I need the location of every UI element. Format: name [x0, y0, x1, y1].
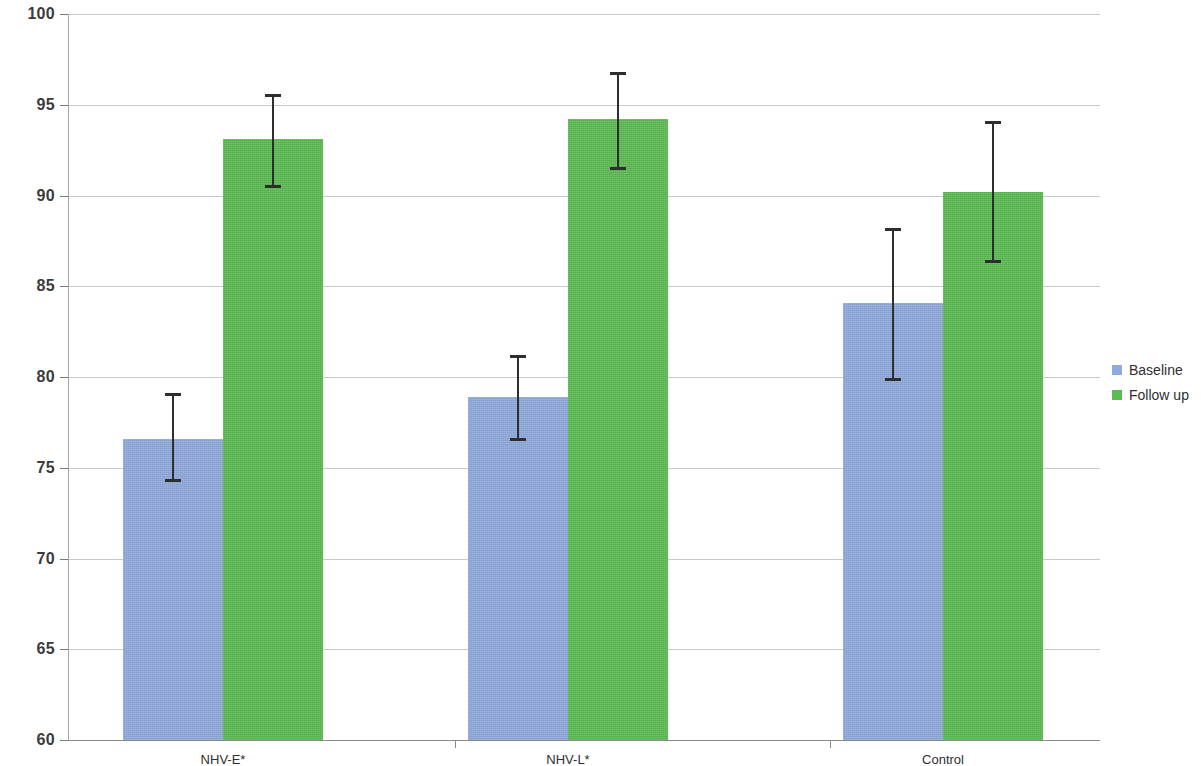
y-tick-label: 90 [37, 187, 55, 205]
y-tick-mark [60, 377, 68, 378]
bar-chart: 1009590858075706560 NHV-E*NHV-L*Control … [0, 0, 1201, 766]
error-bar-cap-top [985, 121, 1001, 124]
x-axis-line [68, 740, 1100, 741]
error-bar-stem [517, 355, 519, 440]
error-bar-cap-bottom [265, 185, 281, 188]
x-tick-mark [830, 741, 831, 748]
bar-Control-follow-up [943, 192, 1043, 740]
y-tick-mark [60, 649, 68, 650]
legend-swatch-icon [1112, 365, 1122, 375]
error-bar-cap-top [885, 228, 901, 231]
error-bar-stem [172, 393, 174, 482]
y-tick-label: 85 [37, 277, 55, 295]
error-bar-cap-top [265, 94, 281, 97]
error-bar-cap-bottom [510, 438, 526, 441]
y-tick-label: 65 [37, 640, 55, 658]
bars-layer [68, 14, 1100, 740]
y-tick-mark [60, 740, 68, 741]
bar-NHVL-baseline [468, 397, 568, 740]
legend-item-follow-up[interactable]: Follow up [1112, 382, 1189, 407]
y-tick-label: 80 [37, 368, 55, 386]
y-tick-label: 95 [37, 96, 55, 114]
x-axis-label-Control: Control [922, 752, 964, 766]
bar-NHVE-follow-up [223, 139, 323, 740]
y-tick-label: 75 [37, 459, 55, 477]
error-bar-cap-top [510, 355, 526, 358]
error-bar-cap-bottom [885, 378, 901, 381]
legend-label: Follow up [1129, 387, 1189, 403]
error-bar-cap-bottom [985, 260, 1001, 263]
error-bar-stem [272, 94, 274, 188]
error-bar-cap-bottom [610, 167, 626, 170]
error-bar-cap-bottom [165, 479, 181, 482]
x-axis-label-NHVL: NHV-L* [546, 752, 589, 766]
legend-swatch-icon [1112, 390, 1122, 400]
error-bar-cap-top [165, 393, 181, 396]
y-tick-mark [60, 286, 68, 287]
legend: BaselineFollow up [1112, 357, 1189, 407]
y-tick-mark [60, 559, 68, 560]
x-axis-label-NHVE: NHV-E* [201, 752, 246, 766]
y-tick-mark [60, 468, 68, 469]
y-tick-mark [60, 196, 68, 197]
error-bar-stem [992, 121, 994, 263]
y-tick-mark [60, 14, 68, 15]
error-bar-stem [617, 72, 619, 170]
legend-label: Baseline [1129, 362, 1183, 378]
error-bar-cap-top [610, 72, 626, 75]
legend-item-baseline[interactable]: Baseline [1112, 357, 1189, 382]
bar-NHVE-baseline [123, 439, 223, 740]
y-tick-mark [60, 105, 68, 106]
y-tick-label: 100 [27, 5, 55, 23]
y-tick-label: 60 [37, 731, 55, 749]
bar-NHVL-follow-up [568, 119, 668, 740]
x-tick-mark [455, 741, 456, 748]
error-bar-stem [892, 228, 894, 380]
y-tick-label: 70 [37, 550, 55, 568]
